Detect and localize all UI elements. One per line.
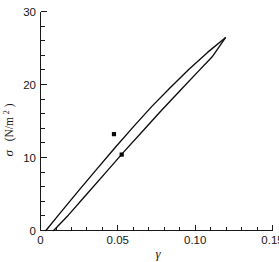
series-group <box>46 38 225 231</box>
y-axis-minor-ticks <box>41 26 45 216</box>
y-axis-major-ticks <box>41 12 47 231</box>
x-axis-minor-ticks <box>56 227 257 231</box>
x-ticklabel-0: 0 <box>37 234 43 246</box>
x-axis-tick-labels: 0 0.05 0.10 0.15 <box>37 234 279 246</box>
y-axis-label-units-sup: 2 <box>2 110 11 114</box>
series-lower-curve <box>54 38 226 231</box>
stress-strain-plot: 30 20 10 0 0 0.05 0.10 0.15 γ σ (N/m 2 ) <box>0 0 279 262</box>
chart-figure: 30 20 10 0 0 0.05 0.10 0.15 γ σ (N/m 2 ) <box>0 0 279 262</box>
x-axis-major-ticks <box>41 225 273 231</box>
y-ticklabel-10: 10 <box>23 152 36 164</box>
y-axis-label-units-close: ) <box>3 103 16 107</box>
y-axis-tick-labels: 30 20 10 0 <box>23 6 36 237</box>
data-point-2 <box>120 152 124 156</box>
y-ticklabel-20: 20 <box>23 79 36 91</box>
x-ticklabel-005: 0.05 <box>107 234 129 246</box>
x-ticklabel-010: 0.10 <box>184 234 206 246</box>
axes-group <box>41 12 273 231</box>
x-ticklabel-015: 0.15 <box>261 234 279 246</box>
y-ticklabel-0: 0 <box>30 225 36 237</box>
y-axis-label: σ (N/m 2 ) <box>0 103 16 156</box>
y-ticklabel-30: 30 <box>23 6 36 18</box>
x-axis-label: γ <box>155 246 161 261</box>
data-point-1 <box>112 132 116 136</box>
y-axis-label-units: (N/m <box>3 117 16 141</box>
series-upper-curve <box>46 38 225 231</box>
svg-text:σ (N/m 2: σ (N/m 2 ) <box>0 103 16 156</box>
y-axis-label-symbol: σ <box>1 150 16 157</box>
